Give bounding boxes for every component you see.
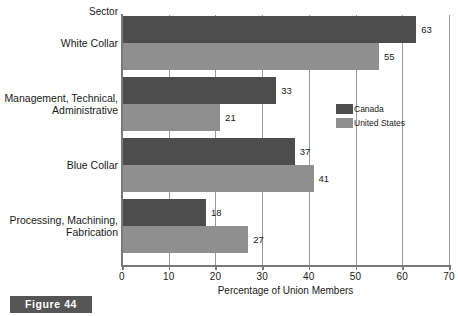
bar-value-label: 41 — [319, 165, 330, 192]
chart-legend: Canada United States — [336, 103, 405, 131]
x-tick-label: 0 — [107, 271, 137, 282]
bar-canada[interactable] — [122, 199, 206, 226]
x-tick-label: 20 — [200, 271, 230, 282]
bar-value-label: 63 — [421, 16, 432, 43]
plot-area: 6355332137411827 — [122, 15, 449, 265]
x-tick — [402, 265, 404, 270]
gridline — [449, 15, 450, 265]
bar-united-states[interactable] — [122, 165, 314, 192]
x-axis-title: Percentage of Union Members — [122, 285, 449, 296]
legend-item-united-states: United States — [336, 117, 405, 129]
bar-canada[interactable] — [122, 16, 416, 43]
gridline — [402, 15, 403, 265]
category-label: White Collar — [0, 37, 118, 50]
category-label: Management, Technical, Administrative — [0, 92, 118, 117]
x-tick-label: 70 — [434, 271, 458, 282]
bar-united-states[interactable] — [122, 104, 220, 131]
x-tick — [356, 265, 358, 270]
figure-caption-band: Figure 44 — [10, 296, 92, 313]
bar-value-label: 37 — [300, 138, 311, 165]
x-tick — [309, 265, 311, 270]
bar-value-label: 21 — [225, 104, 236, 131]
x-tick-label: 40 — [294, 271, 324, 282]
x-tick-label: 10 — [154, 271, 184, 282]
figure-container: Sector 6355332137411827 010203040506070 … — [0, 0, 458, 316]
y-axis-title: Sector — [0, 6, 118, 17]
x-tick — [169, 265, 171, 270]
bar-value-label: 33 — [281, 77, 292, 104]
x-tick — [262, 265, 264, 270]
category-label: Processing, Machining, Fabrication — [0, 214, 118, 239]
legend-label: United States — [354, 118, 405, 128]
bar-value-label: 27 — [253, 226, 264, 253]
x-tick-label: 60 — [387, 271, 417, 282]
x-tick — [215, 265, 217, 270]
category-label: Blue Collar — [0, 159, 118, 172]
x-tick — [122, 265, 124, 270]
bar-value-label: 18 — [211, 199, 222, 226]
legend-label: Canada — [354, 104, 384, 114]
x-tick-label: 30 — [247, 271, 277, 282]
bar-canada[interactable] — [122, 77, 276, 104]
x-tick — [449, 265, 451, 270]
legend-swatch-icon — [336, 118, 353, 128]
bar-united-states[interactable] — [122, 226, 248, 253]
legend-swatch-icon — [336, 104, 353, 114]
y-axis-line — [121, 14, 123, 266]
x-tick-label: 50 — [341, 271, 371, 282]
bar-united-states[interactable] — [122, 43, 379, 70]
bar-canada[interactable] — [122, 138, 295, 165]
legend-item-canada: Canada — [336, 103, 405, 115]
bar-value-label: 55 — [384, 43, 395, 70]
figure-caption-label: Figure 44 — [10, 296, 92, 313]
